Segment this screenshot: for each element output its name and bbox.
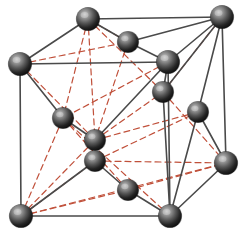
atom-sphere: [85, 151, 106, 172]
crystal-unit-cell-figure: [0, 0, 243, 242]
atom-corner-top-front-right: [156, 50, 180, 74]
atom-specular-highlight: [191, 106, 198, 111]
atom-corner-top-front-left: [8, 52, 32, 76]
atom-specular-highlight: [219, 156, 227, 162]
atom-face-center-lower: [84, 150, 106, 172]
atom-specular-highlight: [156, 86, 163, 91]
atom-face-front: [117, 179, 139, 201]
atom-sphere: [53, 108, 74, 129]
atom-corner-bottom-front-left: [9, 204, 33, 228]
atom-sphere: [85, 130, 106, 151]
atom-specular-highlight: [88, 134, 95, 139]
atom-sphere: [215, 152, 238, 175]
atom-face-right: [187, 101, 209, 123]
atom-sphere: [153, 82, 174, 103]
atom-face-back: [152, 81, 174, 103]
atom-face-center-upper: [84, 129, 106, 151]
atom-sphere: [118, 180, 139, 201]
atom-corner-top-back-right: [210, 5, 234, 29]
atom-corner-bottom-back-right: [214, 151, 238, 175]
atom-specular-highlight: [13, 57, 21, 63]
atom-sphere: [9, 53, 32, 76]
atom-specular-highlight: [163, 209, 171, 215]
atom-specular-highlight: [121, 184, 128, 189]
atom-sphere: [188, 102, 209, 123]
atom-sphere: [159, 205, 182, 228]
atom-specular-highlight: [121, 36, 128, 41]
atom-face-top: [117, 31, 139, 53]
atom-specular-highlight: [56, 112, 63, 117]
atom-specular-highlight: [14, 209, 22, 215]
atom-face-left: [52, 107, 74, 129]
atom-specular-highlight: [88, 155, 95, 160]
atom-sphere: [10, 205, 33, 228]
atom-sphere: [157, 51, 180, 74]
unit-cell-diagram: [0, 0, 243, 242]
atom-corner-bottom-front-right: [158, 204, 182, 228]
atom-sphere: [118, 32, 139, 53]
atom-sphere: [77, 8, 100, 31]
atom-sphere: [211, 6, 234, 29]
atom-specular-highlight: [161, 55, 169, 61]
atom-specular-highlight: [215, 10, 223, 16]
atom-specular-highlight: [81, 12, 89, 18]
atom-corner-top-back-left: [76, 7, 100, 31]
bond-corner-top-front-left-to-corner-bottom-front-left: [20, 64, 21, 216]
